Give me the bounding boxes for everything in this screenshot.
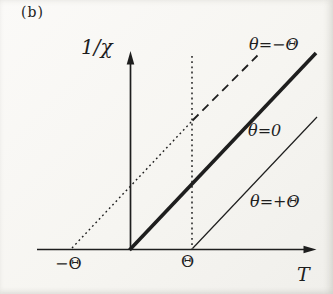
y-axis-arrowhead-icon [127, 51, 135, 65]
neg-theta-line [193, 56, 258, 121]
neg-theta-extrapolation-dotted-line [72, 121, 193, 249]
x-axis-label: T [297, 263, 311, 285]
pos-theta-tick-label: Θ [181, 252, 194, 271]
neg-theta-curve-label: θ=−Θ [249, 35, 299, 54]
zero-theta-curve-label: θ=0 [248, 121, 281, 140]
pos-theta-curve-label: θ=+Θ [250, 192, 300, 211]
x-axis-arrowhead-icon [304, 246, 317, 253]
zero-theta-line [130, 53, 317, 250]
neg-theta-tick-label: −Θ [55, 254, 82, 273]
plot-canvas: (b) 1/χ T θ=−Θ θ=0 θ=+Θ −Θ Θ [0, 0, 333, 294]
y-axis-label: 1/χ [81, 35, 114, 59]
panel-label: (b) [21, 4, 44, 20]
curie-weiss-figure-panel-b: (b) 1/χ T θ=−Θ θ=0 θ=+Θ −Θ Θ [0, 0, 333, 294]
